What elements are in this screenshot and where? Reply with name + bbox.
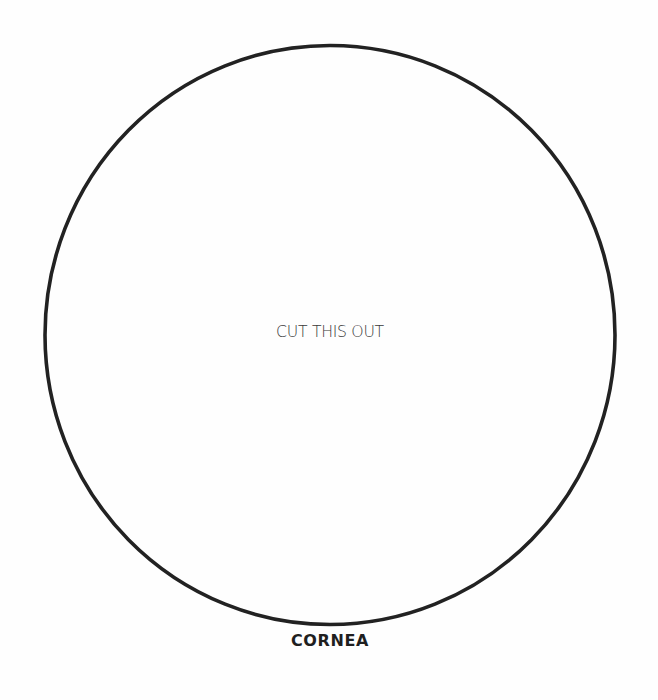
cornea-caption: CORNEA	[230, 630, 430, 652]
cornea-cutout-circle	[0, 0, 658, 700]
cut-instruction-label: CUT THIS OUT	[232, 321, 428, 343]
printable-page: CUT THIS OUT CORNEA	[0, 0, 658, 700]
